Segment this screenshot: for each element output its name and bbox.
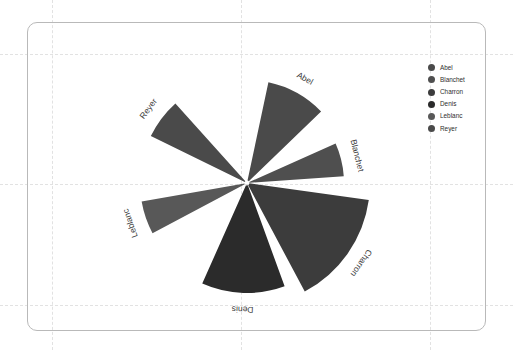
legend-label-blanchet: Blanchet — [440, 77, 465, 83]
rose-label-blanchet: Blanchet — [349, 138, 367, 173]
rose-label-denis: Denis — [232, 304, 254, 315]
legend-label-leblanc: Leblanc — [440, 113, 462, 119]
screenshot-root: AbelBlanchetCharronDenisLeblancReyer Abe… — [0, 0, 513, 350]
legend-swatch-abel — [428, 64, 435, 71]
legend-item-leblanc[interactable]: Leblanc — [428, 111, 488, 123]
rose-wedge-reyer[interactable] — [151, 103, 246, 181]
rose-label-leblanc: Leblanc — [120, 207, 139, 239]
legend-swatch-denis — [428, 101, 435, 108]
rose-wedge-group — [142, 82, 369, 293]
legend-label-denis: Denis — [440, 101, 456, 107]
legend-item-abel[interactable]: Abel — [428, 62, 488, 74]
chart-legend: Abel Blanchet Charron Denis Leblanc Reye… — [428, 62, 488, 135]
legend-swatch-reyer — [428, 125, 435, 132]
rose-chart: AbelBlanchetCharronDenisLeblancReyer — [0, 0, 513, 350]
legend-label-reyer: Reyer — [440, 126, 457, 132]
rose-label-abel: Abel — [295, 70, 315, 87]
legend-label-charron: Charron — [440, 89, 463, 95]
legend-swatch-charron — [428, 89, 435, 96]
legend-item-blanchet[interactable]: Blanchet — [428, 74, 488, 86]
legend-label-abel: Abel — [440, 65, 453, 71]
legend-swatch-blanchet — [428, 76, 435, 83]
legend-swatch-leblanc — [428, 113, 435, 120]
rose-chart-svg: AbelBlanchetCharronDenisLeblancReyer — [0, 0, 513, 350]
legend-item-charron[interactable]: Charron — [428, 86, 488, 98]
legend-item-denis[interactable]: Denis — [428, 99, 488, 111]
rose-label-charron: Charron — [348, 248, 374, 279]
rose-label-reyer: Reyer — [137, 96, 159, 120]
legend-item-reyer[interactable]: Reyer — [428, 123, 488, 135]
